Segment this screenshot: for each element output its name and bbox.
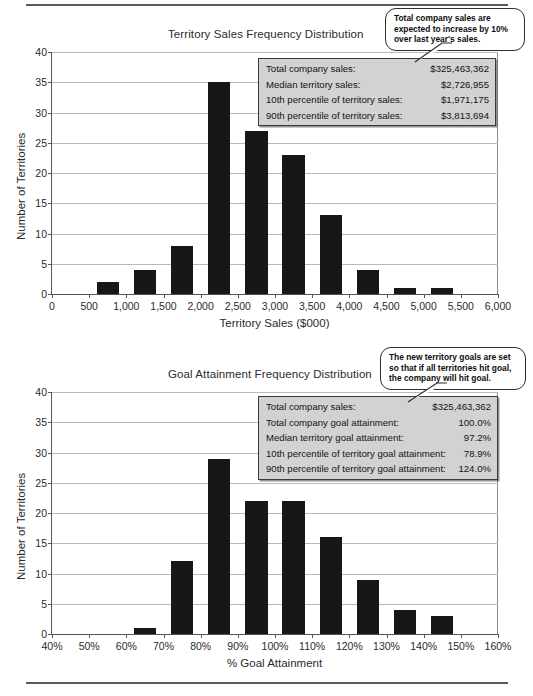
y-tick-label: 15 (35, 197, 47, 209)
x-tick-label: 5,000 (411, 300, 437, 312)
y-tick-label: 10 (35, 568, 47, 580)
y-tick-label: 25 (35, 477, 47, 489)
y-tick-mark (48, 453, 52, 454)
x-tick-mark (461, 294, 462, 298)
x-axis-title: % Goal Attainment (51, 657, 498, 669)
y-tick-mark (48, 513, 52, 514)
histogram-bar (357, 270, 379, 294)
y-tick-label: 20 (35, 507, 47, 519)
goal-attainment-chart: Goal Attainment Frequency Distribution N… (0, 358, 533, 680)
y-tick-mark (48, 143, 52, 144)
x-tick-mark (52, 294, 53, 298)
gridline (52, 234, 498, 235)
y-tick-label: 40 (35, 46, 47, 58)
x-tick-label: 1,000 (113, 300, 139, 312)
x-tick-label: 140% (410, 640, 437, 652)
chart-title: Goal Attainment Frequency Distribution (168, 368, 372, 380)
x-tick-mark (201, 294, 202, 298)
x-tick-mark (201, 634, 202, 638)
x-tick-label: 2,500 (225, 300, 251, 312)
y-tick-mark (48, 264, 52, 265)
stats-value: 78.9% (464, 447, 491, 461)
y-tick-mark (48, 203, 52, 204)
x-tick-mark (349, 634, 350, 638)
y-tick-label: 5 (41, 598, 47, 610)
stats-label: 90th percentile of territory goal attain… (266, 462, 446, 476)
x-tick-mark (498, 294, 499, 298)
gridline (52, 203, 498, 204)
histogram-bar (431, 616, 453, 634)
stats-value: 124.0% (458, 462, 491, 476)
stats-row: 90th percentile of territory sales:$3,81… (259, 108, 495, 124)
histogram-bar (394, 610, 416, 634)
y-tick-mark (48, 113, 52, 114)
x-tick-label: 500 (80, 300, 98, 312)
histogram-bar (320, 537, 342, 634)
histogram-bar (245, 501, 267, 634)
page-rule-bottom (26, 682, 508, 684)
y-tick-label: 10 (35, 228, 47, 240)
histogram-bar (171, 246, 193, 294)
y-tick-label: 20 (35, 167, 47, 179)
x-tick-label: 80% (190, 640, 211, 652)
y-tick-label: 35 (35, 416, 47, 428)
x-tick-mark (424, 634, 425, 638)
x-tick-label: 110% (299, 640, 325, 652)
histogram-bar (394, 288, 416, 294)
x-tick-mark (164, 294, 165, 298)
x-tick-label: 4,500 (373, 300, 399, 312)
y-tick-label: 40 (35, 386, 47, 398)
x-tick-label: 6,000 (485, 300, 511, 312)
histogram-bar (208, 459, 230, 634)
x-tick-mark (126, 294, 127, 298)
y-tick-mark (48, 574, 52, 575)
x-tick-label: 3,000 (262, 300, 288, 312)
x-tick-label: 4,000 (336, 300, 362, 312)
x-tick-label: 130% (373, 640, 400, 652)
x-tick-label: 0 (49, 300, 55, 312)
gridline (52, 604, 498, 605)
x-tick-label: 90% (227, 640, 248, 652)
x-tick-mark (312, 634, 313, 638)
y-tick-label: 0 (41, 628, 47, 640)
gridline (52, 543, 498, 544)
callout-tail-icon (368, 38, 488, 98)
x-tick-label: 40% (41, 640, 62, 652)
histogram-bar (357, 580, 379, 634)
y-tick-label: 15 (35, 537, 47, 549)
histogram-bar (171, 561, 193, 634)
x-tick-mark (349, 294, 350, 298)
x-tick-mark (238, 634, 239, 638)
x-tick-mark (387, 634, 388, 638)
stats-label: Total company sales: (266, 400, 356, 414)
gridline (52, 143, 498, 144)
histogram-bar (134, 270, 156, 294)
x-tick-label: 5,500 (448, 300, 474, 312)
y-axis-title: Number of Territories (15, 473, 27, 580)
gridline (52, 574, 498, 575)
histogram-bar (320, 215, 342, 294)
callout-tail-icon (363, 377, 483, 437)
x-tick-mark (126, 634, 127, 638)
y-tick-mark (48, 604, 52, 605)
y-tick-mark (48, 483, 52, 484)
y-tick-label: 30 (35, 447, 47, 459)
page-rule-top (26, 4, 508, 6)
gridline (52, 483, 498, 484)
x-tick-mark (275, 294, 276, 298)
x-tick-mark (52, 634, 53, 638)
x-tick-mark (238, 294, 239, 298)
histogram-bar (134, 628, 156, 634)
stats-label: Median territory sales: (266, 78, 360, 92)
x-tick-label: 2,000 (188, 300, 214, 312)
y-axis-title: Number of Territories (15, 133, 27, 240)
histogram-bar (282, 501, 304, 634)
stats-label: 90th percentile of territory sales: (266, 109, 403, 123)
x-tick-label: 3,500 (299, 300, 325, 312)
x-tick-mark (387, 294, 388, 298)
y-tick-mark (48, 82, 52, 83)
x-tick-label: 150% (447, 640, 474, 652)
x-tick-label: 120% (336, 640, 363, 652)
y-tick-label: 25 (35, 137, 47, 149)
x-axis-title: Territory Sales ($000) (51, 317, 498, 329)
